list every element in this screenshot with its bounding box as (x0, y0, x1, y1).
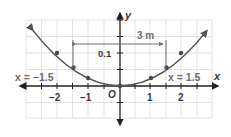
width-label: 3 m (137, 30, 154, 41)
y-tick-0-1: 0.1 (98, 48, 112, 59)
x-axis-label: x (213, 70, 221, 82)
x-tick-neg2: −2 (49, 92, 61, 103)
left-line-label: x = −1.5 (15, 71, 54, 83)
right-line-label: x = 1.5 (168, 71, 201, 83)
x-tick-1: 1 (147, 92, 153, 103)
x-tick-neg1: −1 (80, 92, 92, 103)
y-axis-label: y (124, 9, 132, 21)
origin-label: O (108, 89, 116, 100)
x-tick-2: 2 (178, 92, 184, 103)
axes (20, 13, 218, 125)
parabola-diagram: 3 m 0.1 y x O −2 −1 1 2 x = −1.5 x = 1.5 (0, 0, 231, 137)
